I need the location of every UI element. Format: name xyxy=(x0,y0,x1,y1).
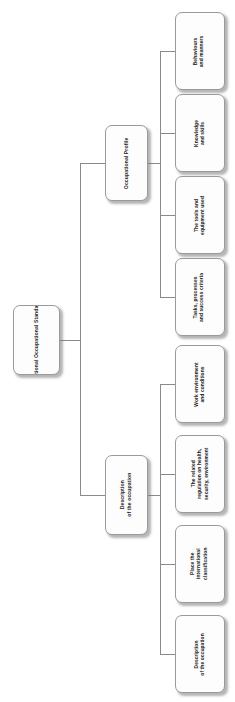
connector-description-to-description-leaf xyxy=(160,654,175,655)
node-national-occupational-standard[interactable]: National Occupational Standard xyxy=(13,305,60,375)
node-label-behaviours-and-manners: Behavioursand manners xyxy=(194,35,207,67)
node-label-description-of-the-occupation: Descriptionof the occupation xyxy=(120,473,133,517)
node-work-environment-and-conditions[interactable]: Work environmentand conditions xyxy=(175,345,225,423)
connector-root-to-description xyxy=(80,495,105,496)
node-label-description-of-the-occupation-leaf: Descriptionof the occupation xyxy=(194,633,207,675)
connector-root-to-occupational-profile xyxy=(80,163,105,164)
connector-profile-to-tasks xyxy=(160,297,175,298)
node-tasks-processes-success-criteria[interactable]: Tasks, processesand success criteria xyxy=(175,258,225,336)
node-label-tasks-processes-success-criteria: Tasks, processesand success criteria xyxy=(194,272,207,321)
node-label-national-occupational-standard: National Occupational Standard xyxy=(33,305,40,375)
connector-description-to-regulation xyxy=(160,474,175,475)
node-label-work-environment-and-conditions: Work environmentand conditions xyxy=(194,362,207,406)
connector-profile-to-knowledge xyxy=(160,133,175,134)
node-place-the-international-classification[interactable]: Place theinternationalclassification xyxy=(175,525,225,603)
connector-profile-to-tools xyxy=(160,215,175,216)
connector-description-to-work-environment xyxy=(160,384,175,385)
node-tools-and-equipment-used[interactable]: The tools andequipment used xyxy=(175,176,225,254)
node-label-place-the-international-classification: Place theinternationalclassification xyxy=(190,548,209,580)
node-behaviours-and-manners[interactable]: Behavioursand manners xyxy=(175,12,225,90)
connector-description-to-classification xyxy=(160,564,175,565)
node-occupational-profile[interactable]: Occupational Profile xyxy=(105,125,148,201)
connector-description-bus xyxy=(160,384,161,654)
node-description-of-the-occupation-leaf[interactable]: Descriptionof the occupation xyxy=(175,615,225,693)
connector-profile-bus xyxy=(160,51,161,297)
node-description-of-the-occupation[interactable]: Descriptionof the occupation xyxy=(105,455,148,535)
node-label-knowledge-and-skills: Knowledgeand skills xyxy=(194,120,207,147)
node-label-tools-and-equipment-used: The tools andequipment used xyxy=(194,196,207,235)
node-label-related-regulation-health-security-environment: The relatedregulation on health,security… xyxy=(190,448,209,501)
diagram-canvas: National Occupational Standard Occupatio… xyxy=(0,0,235,702)
connector-profile-to-behaviours xyxy=(160,51,175,52)
node-related-regulation-health-security-environment[interactable]: The relatedregulation on health,security… xyxy=(175,435,225,513)
node-knowledge-and-skills[interactable]: Knowledgeand skills xyxy=(175,94,225,172)
connector-root-bus xyxy=(80,163,81,495)
connector-root-stub xyxy=(60,340,81,341)
node-label-occupational-profile: Occupational Profile xyxy=(123,137,130,189)
